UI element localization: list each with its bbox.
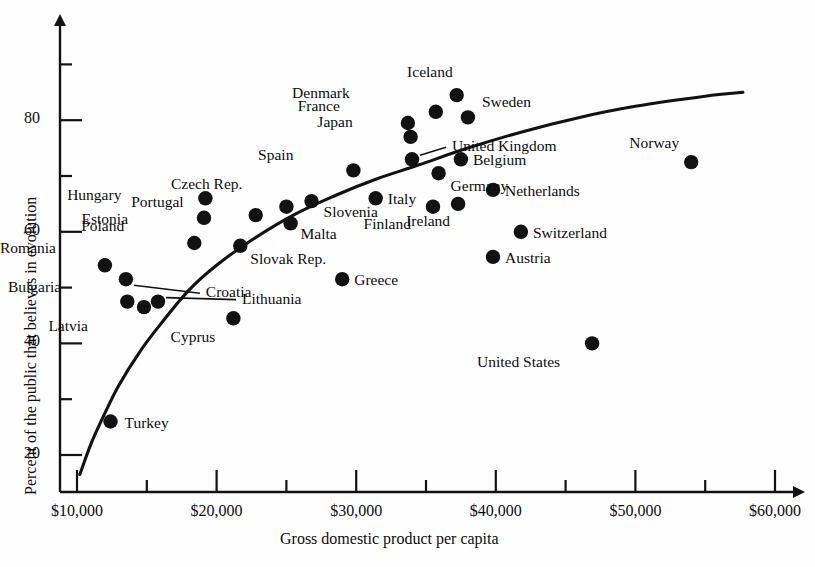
x-tick-label-30000: $30,000: [316, 502, 396, 520]
x-tick-label-40000: $40,000: [456, 502, 536, 520]
y-axis-title: Percent of the public that believes in e…: [22, 197, 40, 495]
data-point-ireland: [451, 197, 465, 211]
data-point-poland: [187, 236, 201, 250]
data-point-united-kingdom: [405, 152, 419, 166]
point-label-united-states: United States: [0, 353, 560, 371]
data-point-hungary: [198, 191, 212, 205]
data-point-sweden: [461, 110, 475, 124]
point-label-slovak-rep: Slovak Rep.: [250, 250, 326, 268]
point-label-iceland: Iceland: [0, 63, 453, 81]
data-point-slovenia: [304, 194, 318, 208]
data-point-spain: [346, 163, 360, 177]
point-label-belgium: Belgium: [473, 151, 526, 169]
data-point-austria: [486, 250, 500, 264]
point-label-poland: Poland: [0, 217, 124, 235]
point-label-netherlands: Netherlands: [505, 182, 580, 200]
data-point-romania: [98, 258, 112, 272]
data-point-croatia: [119, 272, 133, 286]
point-label-turkey: Turkey: [125, 414, 169, 432]
data-point-turkey: [103, 414, 117, 428]
x-tick-label-50000: $50,000: [595, 502, 675, 520]
point-label-sweden: Sweden: [482, 93, 531, 111]
data-point-latvia: [137, 300, 151, 314]
x-axis-title: Gross domestic product per capita: [280, 530, 499, 548]
data-point-slovak-rep: [233, 239, 247, 253]
point-label-lithuania: Lithuania: [242, 290, 301, 308]
y-axis-arrowhead: [54, 14, 66, 26]
data-point-germany: [431, 166, 445, 180]
data-point-lithuania: [151, 294, 165, 308]
point-label-italy: Italy: [388, 190, 416, 208]
point-label-switzerland: Switzerland: [533, 224, 607, 242]
x-tick-label-10000: $10,000: [37, 502, 117, 520]
chart-canvas: IcelandDenmarkSwedenFranceJapanUnited Ki…: [0, 0, 815, 567]
point-label-malta: Malta: [301, 225, 337, 243]
y-tick-label-80: 80: [24, 109, 40, 127]
x-axis-arrowhead: [793, 486, 805, 498]
data-point-iceland: [450, 88, 464, 102]
x-tick-label-60000: $60,000: [735, 502, 815, 520]
x-tick-label-20000: $20,000: [177, 502, 257, 520]
data-point-france: [401, 116, 415, 130]
data-point-denmark: [429, 105, 443, 119]
point-label-japan: Japan: [0, 113, 353, 131]
data-point-cyprus: [226, 311, 240, 325]
data-point-greece: [335, 272, 349, 286]
data-point-switzerland: [514, 225, 528, 239]
point-label-germany: Germany: [451, 177, 509, 195]
data-point-norway: [684, 155, 698, 169]
point-label-norway: Norway: [0, 134, 679, 152]
data-point-united-states: [585, 336, 599, 350]
point-label-austria: Austria: [505, 249, 551, 267]
data-point-bulgaria: [120, 294, 134, 308]
point-label-greece: Greece: [354, 271, 398, 289]
